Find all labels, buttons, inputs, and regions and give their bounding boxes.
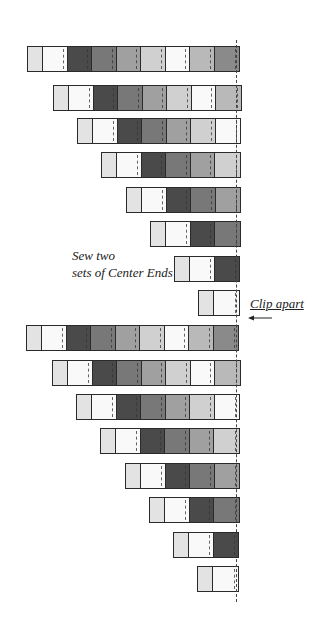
fabric-square <box>118 86 143 110</box>
fabric-square <box>42 326 67 350</box>
fabric-square <box>167 188 192 212</box>
fabric-square <box>68 47 93 71</box>
fabric-square <box>190 498 215 522</box>
seam-line <box>234 535 235 555</box>
seam-line <box>136 431 137 451</box>
seam-line <box>137 363 138 383</box>
strip-row <box>101 152 241 178</box>
seam-line <box>209 328 210 348</box>
seam-line <box>136 397 137 417</box>
seam-line <box>86 328 87 348</box>
strip-row <box>26 325 239 351</box>
fabric-square <box>69 86 94 110</box>
strip-row <box>100 428 240 454</box>
strip-row <box>197 566 239 592</box>
fabric-square <box>189 533 214 557</box>
fabric-square <box>142 119 167 143</box>
fabric-square <box>166 464 191 488</box>
seam-line <box>89 88 90 108</box>
fabric-square <box>166 361 191 385</box>
fabric-square <box>165 429 190 453</box>
fabric-square <box>27 326 42 350</box>
fabric-square <box>213 567 238 591</box>
seam-line <box>234 569 235 589</box>
strip-row <box>27 46 240 72</box>
seam-line <box>160 431 161 451</box>
strip-row <box>77 118 241 144</box>
seam-line <box>160 328 161 348</box>
seam-line <box>210 259 211 279</box>
seam-line <box>161 155 162 175</box>
seam-line <box>88 363 89 383</box>
seam-line <box>186 121 187 141</box>
clip-apart-label: Clip apart <box>250 296 304 312</box>
fabric-square <box>174 533 189 557</box>
seam-line <box>185 466 186 486</box>
seam-line <box>162 88 163 108</box>
fabric-square <box>192 86 217 110</box>
seam-line <box>87 49 88 69</box>
seam-line <box>184 328 185 348</box>
sew-instruction-line1: Sew two <box>72 248 115 264</box>
fabric-square <box>126 464 141 488</box>
seam-line <box>112 397 113 417</box>
seam-line <box>209 431 210 451</box>
fabric-square <box>190 464 215 488</box>
seam-line <box>210 49 211 69</box>
strip-row <box>174 256 240 282</box>
seam-line <box>186 363 187 383</box>
seam-line <box>210 397 211 417</box>
seam-line <box>185 500 186 520</box>
fabric-square <box>191 119 216 143</box>
fabric-square <box>53 361 68 385</box>
fabric-square <box>191 361 216 385</box>
fabric-square <box>190 429 215 453</box>
fabric-square <box>92 395 117 419</box>
fabric-square <box>117 47 142 71</box>
fabric-square <box>191 153 216 177</box>
seam-line <box>161 49 162 69</box>
seam-line <box>186 190 187 210</box>
seam-line <box>113 88 114 108</box>
seam-line <box>185 397 186 417</box>
fabric-square <box>92 47 117 71</box>
seam-line <box>162 190 163 210</box>
seam-line <box>234 328 235 348</box>
fabric-square <box>118 119 143 143</box>
fabric-square <box>91 326 116 350</box>
fabric-square <box>198 567 213 591</box>
seam-line <box>162 121 163 141</box>
fabric-square <box>117 395 142 419</box>
fabric-square <box>141 47 166 71</box>
seam-line <box>185 431 186 451</box>
fabric-square <box>140 326 165 350</box>
fabric-square <box>93 119 118 143</box>
fabric-square <box>94 86 119 110</box>
seam-line <box>63 49 64 69</box>
fabric-square <box>77 395 92 419</box>
fabric-square <box>117 361 142 385</box>
seam-line <box>137 121 138 141</box>
fabric-square <box>214 533 239 557</box>
fabric-square <box>93 361 118 385</box>
strip-row <box>76 394 240 420</box>
seam-line <box>209 535 210 555</box>
fabric-square <box>116 429 141 453</box>
fabric-square <box>190 47 215 71</box>
fabric-square <box>102 153 117 177</box>
seam-line <box>111 328 112 348</box>
fabric-square <box>142 153 167 177</box>
seam-line <box>161 363 162 383</box>
seam-line <box>137 155 138 175</box>
fabric-square <box>142 188 167 212</box>
fabric-square <box>165 498 190 522</box>
fabric-square <box>191 222 216 246</box>
fabric-square <box>78 119 93 143</box>
seam-line <box>211 88 212 108</box>
fabric-square <box>54 86 69 110</box>
fabric-square <box>199 291 214 315</box>
fabric-square <box>143 86 168 110</box>
seam-line <box>211 121 212 141</box>
seam-line <box>138 88 139 108</box>
strip-row <box>173 532 239 558</box>
